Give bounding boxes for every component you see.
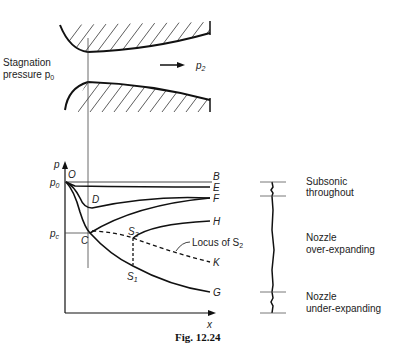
y-axis-label: p <box>53 159 60 170</box>
curve-H <box>133 221 210 238</box>
origin-label: O <box>68 169 76 180</box>
regime-under-line2: under-expanding <box>306 303 381 314</box>
label-S2: S2 <box>128 226 139 238</box>
flow-arrow-icon <box>160 62 185 68</box>
regime-under-line1: Nozzle <box>306 291 337 302</box>
nozzle-pressure-diagram: Stagnation pressure p0 p2 p x O p0 pc B … <box>0 0 400 348</box>
label-C: C <box>81 235 89 246</box>
regime-subsonic-line2: throughout <box>306 187 354 198</box>
label-H: H <box>213 216 221 227</box>
regime-subsonic-line1: Subsonic <box>306 176 347 187</box>
label-D: D <box>92 194 99 205</box>
locus-leader-line <box>176 242 190 251</box>
regime-over-line1: Nozzle <box>306 232 337 243</box>
label-F: F <box>213 193 220 204</box>
label-B: B <box>213 171 220 182</box>
p0-label: p0 <box>49 177 60 189</box>
label-E: E <box>213 182 220 193</box>
label-K: K <box>213 257 221 268</box>
figure-caption: Fig. 12.24 <box>175 331 221 343</box>
label-G: G <box>213 287 221 298</box>
regime-bracket <box>260 182 286 313</box>
stagnation-label-line1: Stagnation <box>3 57 51 68</box>
stagnation-label-line2: pressure p0 <box>3 69 54 81</box>
nozzle-lower-wall <box>60 80 222 120</box>
x-axis-label: x <box>206 319 213 330</box>
nozzle-upper-wall <box>55 20 229 60</box>
exit-pressure-label: p2 <box>195 60 206 72</box>
pc-label: pc <box>49 228 60 240</box>
regime-over-line2: over-expanding <box>306 244 375 255</box>
curve-F <box>90 198 210 233</box>
locus-label: Locus of S2 <box>192 237 243 249</box>
label-S1: S1 <box>127 271 138 283</box>
